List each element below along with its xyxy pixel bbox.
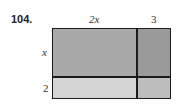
horizontal-divider xyxy=(52,76,171,78)
outer-rectangle xyxy=(52,28,171,99)
label-x: x xyxy=(42,46,47,58)
label-2: 2 xyxy=(43,82,49,94)
vertical-divider xyxy=(136,28,138,99)
label-2x: 2x xyxy=(89,13,99,25)
label-3: 3 xyxy=(151,13,157,25)
problem-number: 104. xyxy=(11,13,32,25)
